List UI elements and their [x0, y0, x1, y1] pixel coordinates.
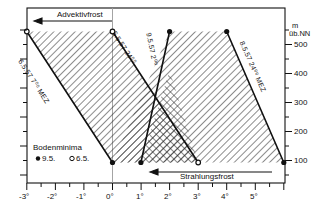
y-axis-ticks-left — [20, 30, 27, 175]
x-tick-label-0: 0° — [106, 192, 114, 201]
chart-canvas — [0, 0, 323, 209]
x-tick-label-neg2: -2° — [47, 192, 57, 201]
legend-item-label-0: 9.5. — [42, 154, 55, 163]
figure-root: m üb.NN 500 400 300 200 100 -3° -2° -1° … — [0, 0, 323, 209]
x-tick-label-neg1: -1° — [76, 192, 86, 201]
x-tick-label-3: 3° — [193, 192, 201, 201]
legend-item-label-1: 6.5. — [76, 154, 89, 163]
strahlungsfrost-label: Strahlungsfrost — [180, 172, 234, 181]
advektivfrost-label: Advektivfrost — [57, 10, 103, 19]
legend-title: Bodenminima — [33, 143, 82, 152]
y-tick-label-400: 400 — [294, 69, 307, 78]
legend-marker-open — [70, 156, 74, 160]
x-tick-label-2: 2° — [164, 192, 172, 201]
x-tick-label-4: 4° — [221, 192, 229, 201]
x-tick-label-1: 1° — [136, 192, 144, 201]
x-tick-label-neg3: -3° — [19, 192, 29, 201]
x-tick-label-5: 5° — [250, 192, 258, 201]
y-tick-label-500: 500 — [294, 40, 307, 49]
y-tick-label-300: 300 — [294, 98, 307, 107]
x-axis-ticks — [27, 183, 284, 190]
y-tick-label-100: 100 — [294, 156, 307, 165]
y-axis-unit-line2: üb.NN — [289, 30, 310, 38]
y-tick-label-200: 200 — [294, 127, 307, 136]
y-axis-ticks-right — [285, 30, 292, 175]
legend-marker-filled — [36, 156, 40, 160]
